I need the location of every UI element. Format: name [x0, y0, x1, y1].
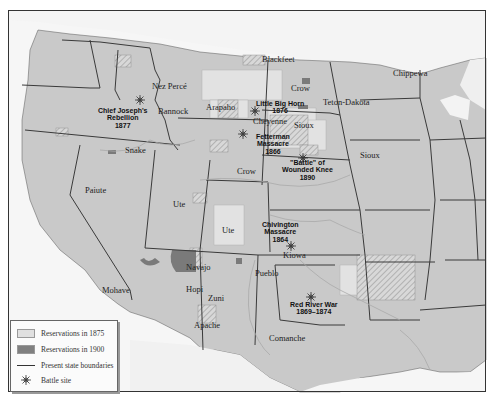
- legend-label: Reservations in 1875: [41, 329, 104, 338]
- battle-label: Red River War 1869–1874: [290, 301, 338, 316]
- legend-item-1900: Reservations in 1900: [17, 345, 104, 354]
- tribe-label: Arapaho: [206, 103, 235, 112]
- tribe-label: Sioux: [360, 151, 380, 160]
- tribe-label: Mohave: [102, 286, 130, 295]
- battle-star-icon: [135, 91, 145, 101]
- tribe-label: Apache: [194, 321, 220, 330]
- battle-label: Little Big Horn 1876: [256, 100, 304, 115]
- battle-star-icon: [238, 125, 248, 135]
- tribe-label: Pueblo: [255, 269, 279, 278]
- tribe-label: Paiute: [85, 186, 106, 195]
- tribe-label: Bannock: [158, 107, 188, 116]
- tribe-label: Crow: [291, 84, 310, 93]
- battle-star-icon: [298, 149, 308, 159]
- battle-star-icon: [17, 375, 35, 385]
- tribe-label: Cheyenne: [253, 117, 287, 126]
- tribe-label: Hopi: [186, 285, 203, 294]
- tribe-label: Kiowa: [283, 251, 306, 260]
- battle-star-icon: [250, 102, 260, 112]
- legend-label: Reservations in 1900: [41, 345, 104, 354]
- tribe-label: Navajo: [186, 263, 211, 272]
- tribe-label: Comanche: [269, 334, 305, 343]
- legend-item-battle: Battle site: [17, 375, 71, 385]
- tribe-label: Snake: [125, 146, 146, 155]
- legend-label: Battle site: [41, 376, 71, 385]
- tribe-label: Blackfeet: [262, 55, 295, 64]
- legend-label: Present state boundaries: [41, 361, 113, 370]
- line-swatch: [17, 365, 35, 366]
- swatch-1900: [17, 345, 35, 354]
- swatch-1875: [17, 329, 35, 338]
- battle-star-icon: [286, 237, 296, 247]
- tribe-label: Zuni: [208, 294, 224, 303]
- tribe-label: Nez Percé: [152, 82, 187, 91]
- battle-label: Chief Joseph's Rebellion 1877: [98, 107, 148, 129]
- battle-star-icon: [306, 288, 316, 298]
- legend: Reservations in 1875 Reservations in 190…: [10, 320, 118, 392]
- legend-item-1875: Reservations in 1875: [17, 329, 104, 338]
- tribe-label: Ute: [222, 226, 234, 235]
- legend-item-boundaries: Present state boundaries: [17, 361, 113, 370]
- tribe-label: Teton-Dakota: [323, 98, 370, 107]
- tribe-label: Ute: [173, 200, 185, 209]
- tribe-label: Sioux: [294, 121, 314, 130]
- tribe-label: Chippewa: [393, 69, 427, 78]
- battle-label: Fetterman Massacre 1866: [256, 133, 290, 155]
- tribe-label: Crow: [237, 167, 256, 176]
